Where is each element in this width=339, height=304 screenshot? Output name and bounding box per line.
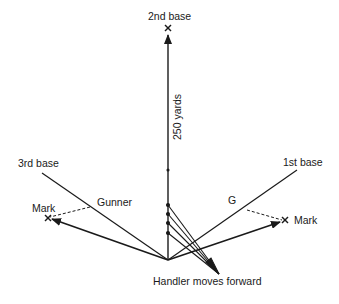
second-base-label: 2nd base — [148, 10, 191, 22]
first-base-label: 1st base — [283, 156, 323, 168]
gunner-label: Gunner — [97, 196, 132, 208]
right-mark-icon — [282, 217, 288, 223]
second-base-marker-icon — [165, 25, 171, 31]
right-mark-label: Mark — [294, 214, 317, 226]
third-base-line — [42, 173, 168, 260]
field-diagram — [0, 0, 339, 304]
gunner-right-dashed — [247, 210, 282, 220]
left-mark-label: Mark — [32, 202, 55, 214]
arrow-to-left-mark — [52, 219, 168, 260]
gunner-short-label: G — [228, 194, 236, 206]
third-base-label: 3rd base — [18, 157, 59, 169]
gunner-left-dashed — [50, 207, 90, 217]
distance-label: 250 yards — [171, 94, 183, 140]
first-base-line — [168, 170, 297, 260]
handler-label: Handler moves forward — [153, 275, 262, 287]
left-mark-icon — [45, 215, 51, 221]
